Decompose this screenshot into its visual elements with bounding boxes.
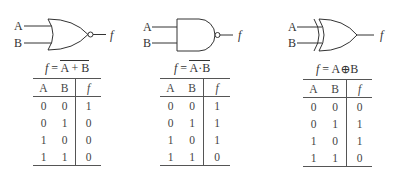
nor-expression: f = A + B <box>45 61 89 75</box>
nor-gate-panel: A B f f = A + B A B f 001 010 100 110 <box>0 0 132 178</box>
cell: 1 <box>181 148 204 166</box>
cell: 0 <box>303 115 324 132</box>
table-row: 110 <box>303 149 372 167</box>
cell: 0 <box>303 98 324 116</box>
table-row: 000 <box>303 98 372 116</box>
input-a-label: A <box>143 21 152 33</box>
output-f-label: f <box>238 29 241 41</box>
expression-lhs: f <box>174 61 177 75</box>
expression-rhs: A·B <box>189 60 210 75</box>
cell: 1 <box>76 97 102 115</box>
table-row: 010 <box>33 114 101 131</box>
expression-rhs: A⊕B <box>331 62 358 76</box>
expression-equals: = <box>322 62 329 76</box>
table-header-row: A B f <box>303 80 372 98</box>
input-b-label: B <box>14 37 22 49</box>
header-f: f <box>204 79 231 97</box>
cell: 0 <box>76 114 102 131</box>
table-row: 011 <box>160 114 230 131</box>
output-f-label: f <box>380 29 383 41</box>
xor-gate-symbol <box>264 0 396 60</box>
cell: 0 <box>347 98 373 116</box>
table-row: 110 <box>33 148 101 166</box>
table-row: 100 <box>33 131 101 148</box>
cell: 1 <box>160 131 181 148</box>
input-a-label: A <box>288 21 297 33</box>
expression-equals: = <box>51 61 58 75</box>
nand-truth-table: A B f 001 011 101 110 <box>160 78 230 166</box>
cell: 0 <box>324 132 347 149</box>
cell: 0 <box>204 148 231 166</box>
header-b: B <box>54 79 76 97</box>
header-b: B <box>181 79 204 97</box>
table-row: 101 <box>303 132 372 149</box>
nand-expression: f = A·B <box>174 61 210 75</box>
cell: 1 <box>347 132 373 149</box>
expression-lhs: f <box>45 61 48 75</box>
cell: 1 <box>324 149 347 167</box>
table-row: 011 <box>303 115 372 132</box>
header-a: A <box>303 80 324 98</box>
cell: 0 <box>76 131 102 148</box>
input-a-label: A <box>14 20 23 32</box>
xor-gate-panel: A B f f = A⊕B A B f 000 011 101 110 <box>264 0 396 178</box>
expression-lhs: f <box>316 62 319 76</box>
header-a: A <box>33 79 54 97</box>
cell: 0 <box>181 131 204 148</box>
nand-gate-panel: A B f f = A·B A B f 001 011 101 110 <box>132 0 264 178</box>
table-row: 001 <box>33 97 101 115</box>
cell: 1 <box>54 114 76 131</box>
cell: 0 <box>76 148 102 166</box>
expression-rhs: A + B <box>60 60 89 75</box>
cell: 0 <box>324 98 347 116</box>
cell: 0 <box>160 114 181 131</box>
header-f: f <box>76 79 102 97</box>
cell: 1 <box>160 148 181 166</box>
table-header-row: A B f <box>160 79 230 97</box>
cell: 1 <box>324 115 347 132</box>
input-b-label: B <box>143 37 151 49</box>
header-b: B <box>324 80 347 98</box>
cell: 1 <box>33 148 54 166</box>
cell: 1 <box>347 115 373 132</box>
cell: 0 <box>54 131 76 148</box>
cell: 0 <box>33 114 54 131</box>
cell: 1 <box>204 97 231 115</box>
cell: 0 <box>160 97 181 115</box>
table-row: 001 <box>160 97 230 115</box>
input-b-label: B <box>288 37 296 49</box>
cell: 1 <box>204 114 231 131</box>
cell: 1 <box>181 114 204 131</box>
cell: 0 <box>181 97 204 115</box>
header-f: f <box>347 80 373 98</box>
table-header-row: A B f <box>33 79 101 97</box>
cell: 0 <box>33 97 54 115</box>
table-row: 101 <box>160 131 230 148</box>
nor-truth-table: A B f 001 010 100 110 <box>33 78 101 166</box>
cell: 0 <box>347 149 373 167</box>
header-a: A <box>160 79 181 97</box>
table-row: 110 <box>160 148 230 166</box>
output-f-label: f <box>110 29 113 41</box>
cell: 1 <box>303 149 324 167</box>
cell: 1 <box>204 131 231 148</box>
cell: 1 <box>303 132 324 149</box>
expression-equals: = <box>180 61 187 75</box>
cell: 0 <box>54 97 76 115</box>
cell: 1 <box>33 131 54 148</box>
xor-truth-table: A B f 000 011 101 110 <box>303 79 372 167</box>
cell: 1 <box>54 148 76 166</box>
xor-expression: f = A⊕B <box>316 62 358 76</box>
